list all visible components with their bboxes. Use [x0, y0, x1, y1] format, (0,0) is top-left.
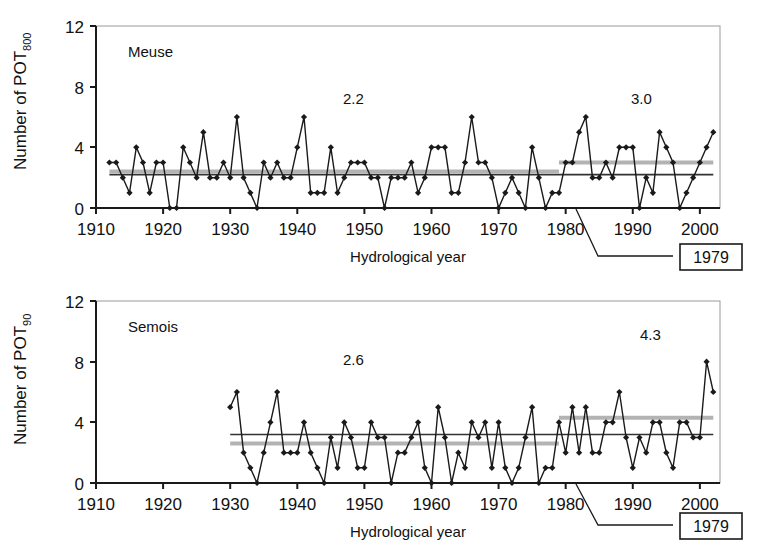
x-tick-label-1970: 1970 [480, 220, 518, 239]
semois-mean-before-label: 2.6 [343, 351, 364, 368]
y-tick-label-4: 4 [75, 139, 84, 158]
meuse-y-axis-title: Number of POT800 [11, 33, 33, 170]
meuse-x-axis-title: Hydrological year [350, 248, 466, 265]
meuse-y-ticks: 12 8 4 0 [65, 18, 96, 219]
x-tick-label-1950: 1950 [345, 495, 383, 514]
meuse-mean-before-label: 2.2 [343, 90, 364, 107]
y-tick-label-0: 0 [75, 475, 84, 494]
x-tick-label-1980: 1980 [547, 495, 585, 514]
meuse-svg: 12 8 4 0 1910192019301940195019601970198… [0, 0, 761, 275]
x-tick-label-1910: 1910 [77, 220, 115, 239]
y-tick-label-0: 0 [75, 200, 84, 219]
x-tick-label-2000: 2000 [681, 220, 719, 239]
semois-year-box-label: 1979 [693, 518, 729, 535]
meuse-x-ticks: 1910192019301940195019601970198019902000 [77, 208, 719, 239]
x-tick-label-1990: 1990 [614, 495, 652, 514]
semois-y-ticks: 12 8 4 0 [65, 293, 96, 494]
x-tick-label-1960: 1960 [413, 495, 451, 514]
semois-mean-after-label: 4.3 [640, 326, 661, 343]
x-tick-label-1940: 1940 [278, 220, 316, 239]
y-tick-label-12: 12 [65, 293, 84, 312]
x-tick-label-1920: 1920 [144, 495, 182, 514]
x-tick-label-1980: 1980 [547, 220, 585, 239]
x-tick-label-1920: 1920 [144, 220, 182, 239]
figure-root: 12 8 4 0 1910192019301940195019601970198… [0, 0, 761, 550]
x-tick-label-1960: 1960 [413, 220, 451, 239]
semois-x-axis-title: Hydrological year [350, 523, 466, 540]
plot-area-border [96, 301, 720, 483]
y-tick-label-12: 12 [65, 18, 84, 37]
x-tick-label-1930: 1930 [211, 220, 249, 239]
meuse-year-box-label: 1979 [693, 249, 729, 266]
x-tick-label-1940: 1940 [278, 495, 316, 514]
x-tick-label-2000: 2000 [681, 495, 719, 514]
y-tick-label-8: 8 [75, 354, 84, 373]
x-tick-label-1990: 1990 [614, 220, 652, 239]
meuse-plot-frame [96, 26, 720, 208]
semois-x-ticks: 1910192019301940195019601970198019902000 [77, 483, 719, 514]
meuse-series-label: Meuse [128, 43, 173, 60]
semois-plot-frame [96, 301, 720, 483]
x-tick-label-1970: 1970 [480, 495, 518, 514]
semois-y-axis-title: Number of POT90 [11, 314, 33, 445]
chart-panel-meuse: 12 8 4 0 1910192019301940195019601970198… [0, 0, 761, 275]
y-tick-label-8: 8 [75, 79, 84, 98]
semois-svg: 12 8 4 0 1910192019301940195019601970198… [0, 275, 761, 550]
plot-area-border [96, 26, 720, 208]
semois-series-label: Semois [128, 318, 178, 335]
y-tick-label-4: 4 [75, 414, 84, 433]
x-tick-label-1930: 1930 [211, 495, 249, 514]
x-tick-label-1950: 1950 [345, 220, 383, 239]
chart-panel-semois: 12 8 4 0 1910192019301940195019601970198… [0, 275, 761, 550]
x-tick-label-1910: 1910 [77, 495, 115, 514]
meuse-mean-after-label: 3.0 [631, 90, 652, 107]
